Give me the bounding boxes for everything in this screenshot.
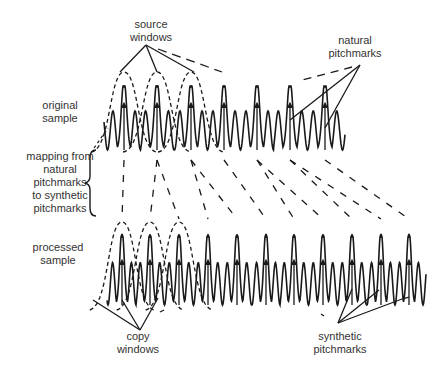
callout-lines xyxy=(93,45,409,330)
psola-diagram xyxy=(0,0,446,371)
mapping-brace-icon xyxy=(85,150,96,216)
